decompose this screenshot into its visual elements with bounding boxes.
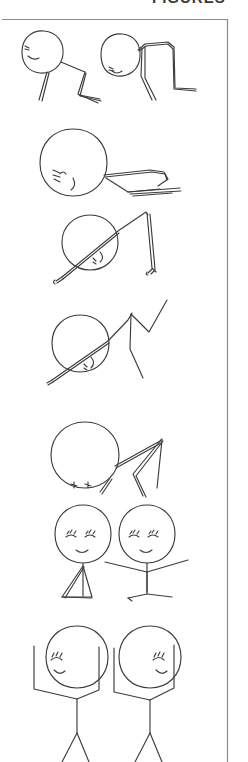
figure-face (66, 530, 95, 553)
figure-head (51, 422, 119, 488)
figure-head (101, 34, 140, 76)
page-border (2, 19, 228, 762)
figure-body (105, 560, 188, 601)
figure-body (62, 563, 92, 598)
panel-zigzag-limb (47, 300, 167, 385)
figure-body (39, 62, 101, 103)
panel-standing-pair (34, 626, 181, 762)
stick-figure-sketch-strip (0, 0, 248, 762)
figure-body (100, 439, 163, 497)
figure-body (104, 170, 181, 196)
figure-arms (34, 646, 99, 699)
figure-face (129, 530, 158, 553)
figure-body (54, 212, 157, 284)
figure-face (53, 170, 75, 190)
figure-face (51, 652, 65, 673)
figure-face (71, 482, 91, 488)
figure-face (109, 67, 122, 73)
panel-arms-raised-prone (51, 422, 163, 497)
figure-head (55, 505, 111, 563)
figure-head (62, 215, 118, 270)
sketch-page: FIGURES (0, 0, 248, 762)
figure-head (22, 31, 63, 73)
panel-tilted-head-legs-up (54, 212, 157, 284)
panel-seated-pair (55, 505, 188, 601)
figure-face (153, 652, 167, 673)
figure-body (135, 700, 162, 762)
figure-head (119, 626, 181, 688)
figure-body (47, 300, 167, 385)
figure-face (25, 46, 39, 59)
figure-body (138, 42, 196, 100)
figure-head (40, 129, 107, 196)
panel-big-head-flat (40, 129, 181, 196)
figure-body (62, 699, 89, 762)
figure-head (119, 505, 175, 563)
panel-lying-pair (22, 31, 196, 103)
